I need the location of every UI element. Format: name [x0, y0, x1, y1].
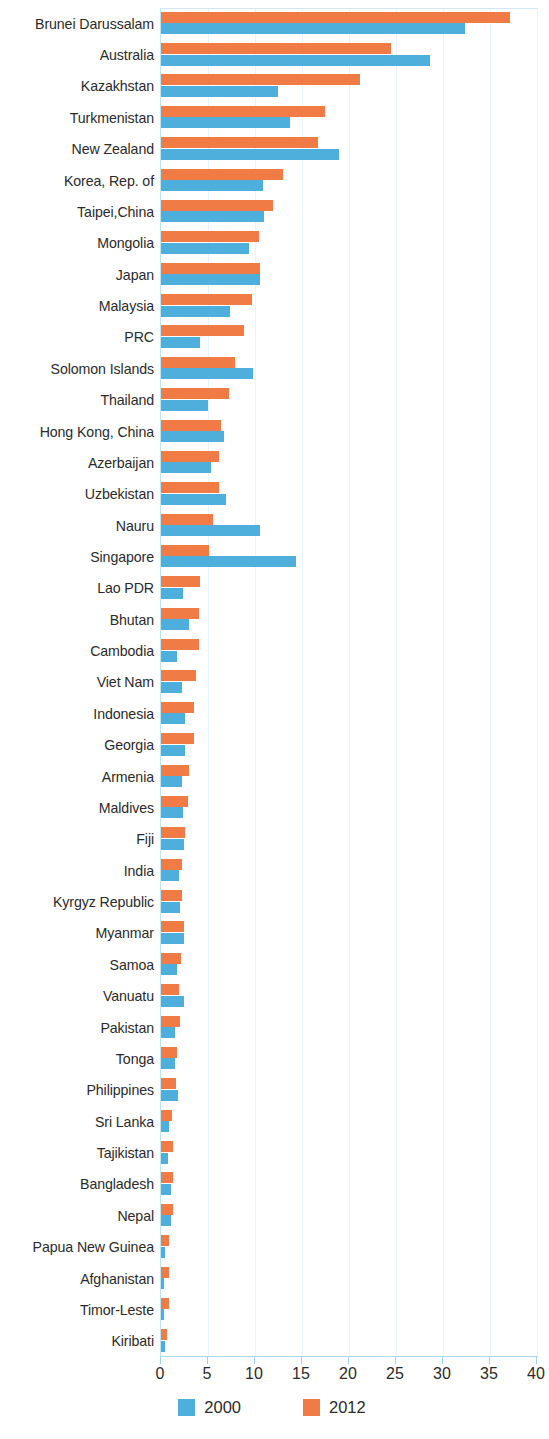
row-bars — [161, 71, 544, 102]
bar-2012 — [161, 451, 219, 462]
bar-2012 — [161, 1298, 169, 1309]
chart-row: Fiji — [0, 824, 544, 855]
x-axis-tick-label: 35 — [469, 1364, 509, 1384]
bar-2012 — [161, 1172, 173, 1183]
row-bars — [161, 133, 544, 164]
bar-2012 — [161, 765, 189, 776]
bar-2012 — [161, 388, 229, 399]
category-label: Viet Nam — [0, 675, 154, 689]
x-axis-tick — [489, 1357, 490, 1364]
bar-2012 — [161, 796, 188, 807]
row-bars — [161, 1075, 544, 1106]
row-bars — [161, 416, 544, 447]
category-label: Pakistan — [0, 1021, 154, 1035]
category-label: Nauru — [0, 519, 154, 533]
row-bars — [161, 353, 544, 384]
chart-row: Brunei Darussalam — [0, 8, 544, 39]
category-label: Lao PDR — [0, 581, 154, 595]
category-label: Singapore — [0, 550, 154, 564]
x-axis-tick-label: 15 — [281, 1364, 321, 1384]
row-bars — [161, 635, 544, 666]
category-label: New Zealand — [0, 142, 154, 156]
bar-2000 — [161, 1058, 175, 1069]
chart-row: Pakistan — [0, 1012, 544, 1043]
bar-2012 — [161, 294, 252, 305]
bar-2000 — [161, 870, 179, 881]
legend-swatch-2000-icon — [178, 1399, 195, 1416]
category-label: Myanmar — [0, 926, 154, 940]
row-bars — [161, 886, 544, 917]
bar-2000 — [161, 180, 263, 191]
chart-row: PRC — [0, 322, 544, 353]
bar-2012 — [161, 921, 184, 932]
category-label: Australia — [0, 48, 154, 62]
bar-2000 — [161, 431, 224, 442]
bar-2012 — [161, 1141, 173, 1152]
chart-row: Nepal — [0, 1200, 544, 1231]
bar-2012 — [161, 74, 360, 85]
bar-2012 — [161, 608, 199, 619]
chart-row: Bangladesh — [0, 1169, 544, 1200]
bar-2012 — [161, 670, 196, 681]
category-label: Nepal — [0, 1209, 154, 1223]
bar-2012 — [161, 1267, 169, 1278]
bar-2012 — [161, 1047, 177, 1058]
x-axis-tick-label: 20 — [328, 1364, 368, 1384]
chart-row: Vanuatu — [0, 981, 544, 1012]
row-bars — [161, 322, 544, 353]
legend-label: 2000 — [204, 1399, 241, 1416]
row-bars — [161, 1169, 544, 1200]
bar-2000 — [161, 86, 278, 97]
category-label: Mongolia — [0, 236, 154, 250]
chart-row: Korea, Rep. of — [0, 165, 544, 196]
bar-2000 — [161, 839, 184, 850]
category-label: Maldives — [0, 801, 154, 815]
row-bars — [161, 1043, 544, 1074]
bar-2012 — [161, 1110, 172, 1121]
category-label: Kiribati — [0, 1334, 154, 1348]
row-bars — [161, 667, 544, 698]
bar-2012 — [161, 231, 259, 242]
bar-2012 — [161, 514, 213, 525]
chart-row: Cambodia — [0, 635, 544, 666]
bar-2000 — [161, 1027, 175, 1038]
x-axis-tick-label: 40 — [516, 1364, 549, 1384]
x-axis-tick — [160, 1357, 161, 1364]
bar-2000 — [161, 745, 185, 756]
bar-2012 — [161, 545, 209, 556]
category-label: Tajikistan — [0, 1146, 154, 1160]
row-bars — [161, 384, 544, 415]
category-label: Turkmenistan — [0, 111, 154, 125]
bar-2000 — [161, 1341, 165, 1352]
bar-2000 — [161, 933, 184, 944]
x-axis-tick — [442, 1357, 443, 1364]
x-axis-tick — [395, 1357, 396, 1364]
bar-2000 — [161, 651, 177, 662]
x-axis-tick-label: 0 — [140, 1364, 180, 1384]
row-bars — [161, 573, 544, 604]
category-label: Taipei,China — [0, 205, 154, 219]
bar-2012 — [161, 1235, 169, 1246]
row-bars — [161, 447, 544, 478]
bar-2000 — [161, 619, 189, 630]
bar-2000 — [161, 1247, 165, 1258]
chart-row: Nauru — [0, 510, 544, 541]
x-axis-tick — [301, 1357, 302, 1364]
chart-row: Mongolia — [0, 228, 544, 259]
bar-2012 — [161, 263, 260, 274]
bar-2012 — [161, 43, 391, 54]
category-label: Papua New Guinea — [0, 1240, 154, 1254]
bar-2000 — [161, 996, 184, 1007]
category-label: Bangladesh — [0, 1177, 154, 1191]
row-bars — [161, 949, 544, 980]
chart-row: Maldives — [0, 792, 544, 823]
bar-2000 — [161, 556, 296, 567]
x-axis-tick-label: 10 — [234, 1364, 274, 1384]
row-bars — [161, 259, 544, 290]
row-bars — [161, 196, 544, 227]
bar-2000 — [161, 588, 183, 599]
row-bars — [161, 1012, 544, 1043]
row-bars — [161, 604, 544, 635]
row-bars — [161, 918, 544, 949]
chart-row: Indonesia — [0, 698, 544, 729]
